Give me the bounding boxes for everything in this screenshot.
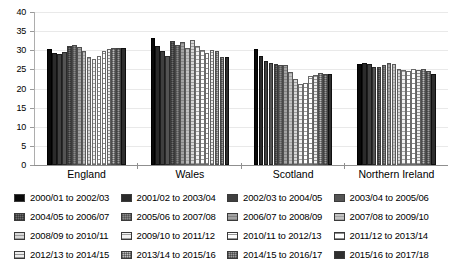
bar[interactable]: [401, 70, 406, 165]
bar[interactable]: [372, 67, 377, 165]
legend-item[interactable]: 2012/13 to 2014/15: [14, 245, 119, 264]
bar[interactable]: [92, 59, 97, 165]
bar[interactable]: [323, 74, 328, 165]
legend-item[interactable]: 2002/03 to 2004/05: [227, 188, 332, 207]
legend-label: 2001/02 to 2003/04: [137, 193, 216, 203]
bar[interactable]: [303, 83, 308, 165]
bar[interactable]: [264, 61, 269, 165]
bar[interactable]: [185, 48, 190, 165]
bar[interactable]: [431, 74, 436, 165]
bar[interactable]: [254, 49, 259, 165]
bar[interactable]: [274, 64, 279, 165]
bar[interactable]: [175, 45, 180, 165]
bar[interactable]: [97, 56, 102, 165]
bar[interactable]: [421, 69, 426, 165]
legend-label: 2002/03 to 2004/05: [243, 193, 322, 203]
bar[interactable]: [62, 52, 67, 165]
bar[interactable]: [357, 64, 362, 165]
bar[interactable]: [416, 70, 421, 165]
bar[interactable]: [392, 64, 397, 165]
bar[interactable]: [107, 49, 112, 165]
legend-item[interactable]: 2004/05 to 2006/07: [14, 207, 119, 226]
bar[interactable]: [259, 56, 264, 165]
bar[interactable]: [67, 46, 72, 165]
bar[interactable]: [170, 41, 175, 165]
bar[interactable]: [377, 67, 382, 165]
legend-label: 2006/07 to 2008/09: [243, 212, 322, 222]
legend-swatch: [121, 251, 132, 259]
legend-label: 2013/14 to 2015/16: [137, 250, 216, 260]
bar[interactable]: [362, 63, 367, 165]
bar[interactable]: [155, 46, 160, 165]
bar[interactable]: [397, 69, 402, 165]
bar[interactable]: [47, 49, 52, 165]
x-axis-category-scotland: Scotland: [242, 168, 345, 182]
legend-item[interactable]: 2010/11 to 2012/13: [227, 226, 332, 245]
bar[interactable]: [200, 50, 205, 165]
legend-item[interactable]: 2011/12 to 2013/14: [334, 226, 439, 245]
legend-item[interactable]: 2009/10 to 2011/12: [121, 226, 226, 245]
y-axis-tick-mark: [30, 127, 34, 128]
legend-item[interactable]: 2008/09 to 2010/11: [14, 226, 119, 245]
legend-item[interactable]: 2005/06 to 2007/08: [121, 207, 226, 226]
legend-item[interactable]: 2003/04 to 2005/06: [334, 188, 439, 207]
bar[interactable]: [293, 79, 298, 165]
y-axis-tick-label: 30: [16, 46, 26, 55]
bar[interactable]: [77, 47, 82, 165]
legend-item[interactable]: 2007/08 to 2009/10: [334, 207, 439, 226]
bar[interactable]: [426, 71, 431, 165]
legend-swatch: [334, 194, 345, 202]
legend-item[interactable]: 2000/01 to 2002/03: [14, 188, 119, 207]
y-axis-tick-mark: [30, 50, 34, 51]
bar[interactable]: [121, 48, 126, 165]
bar[interactable]: [151, 38, 156, 165]
bar[interactable]: [57, 54, 62, 165]
bar[interactable]: [102, 51, 107, 165]
bar[interactable]: [313, 75, 318, 165]
bar[interactable]: [308, 76, 313, 166]
bar[interactable]: [160, 51, 165, 165]
legend-swatch: [227, 194, 238, 202]
bar[interactable]: [318, 73, 323, 165]
bar[interactable]: [116, 48, 121, 165]
bar[interactable]: [72, 45, 77, 165]
bar[interactable]: [406, 71, 411, 165]
bar[interactable]: [387, 63, 392, 165]
y-axis-tick-label: 5: [21, 141, 26, 150]
legend-label: 2012/13 to 2014/15: [30, 250, 109, 260]
y-axis-tick-label: 15: [16, 103, 26, 112]
bar[interactable]: [411, 69, 416, 165]
bar[interactable]: [283, 65, 288, 165]
legend-label: 2005/06 to 2007/08: [137, 212, 216, 222]
bar[interactable]: [52, 53, 57, 165]
bar[interactable]: [215, 51, 220, 165]
bar[interactable]: [111, 48, 116, 165]
y-axis-tick-label: 20: [16, 84, 26, 93]
legend-label: 2015/16 to 2017/18: [350, 250, 429, 260]
legend-item[interactable]: 2006/07 to 2008/09: [227, 207, 332, 226]
legend-label: 2010/11 to 2012/13: [243, 231, 321, 241]
bar[interactable]: [180, 42, 185, 165]
bar[interactable]: [225, 57, 230, 165]
bar[interactable]: [82, 51, 87, 165]
bar[interactable]: [278, 65, 283, 165]
legend-item[interactable]: 2014/15 to 2016/17: [227, 245, 332, 264]
bar[interactable]: [328, 74, 333, 165]
bar-group-scotland: [242, 12, 345, 165]
bar[interactable]: [210, 50, 215, 165]
bar[interactable]: [288, 72, 293, 165]
legend-swatch: [121, 213, 132, 221]
bar[interactable]: [165, 56, 170, 165]
bar[interactable]: [269, 63, 274, 165]
bar[interactable]: [382, 65, 387, 165]
legend-item[interactable]: 2015/16 to 2017/18: [334, 245, 439, 264]
legend-item[interactable]: 2013/14 to 2015/16: [121, 245, 226, 264]
bar[interactable]: [220, 57, 225, 165]
bar[interactable]: [87, 57, 92, 165]
bar[interactable]: [298, 84, 303, 165]
bar[interactable]: [190, 40, 195, 165]
bar[interactable]: [195, 46, 200, 165]
bar[interactable]: [367, 64, 372, 165]
bar[interactable]: [205, 53, 210, 165]
legend-item[interactable]: 2001/02 to 2003/04: [121, 188, 226, 207]
